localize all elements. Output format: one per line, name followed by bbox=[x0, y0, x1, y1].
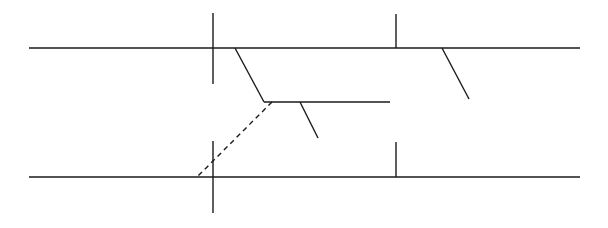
top-branch-slant bbox=[235, 48, 264, 102]
dashed-connector bbox=[196, 102, 272, 178]
diagram-lines bbox=[29, 13, 580, 213]
right-branch-slant bbox=[442, 48, 469, 99]
middle-branch-slant bbox=[300, 102, 318, 138]
diagram-canvas bbox=[0, 0, 608, 228]
diagram-svg bbox=[0, 0, 608, 228]
